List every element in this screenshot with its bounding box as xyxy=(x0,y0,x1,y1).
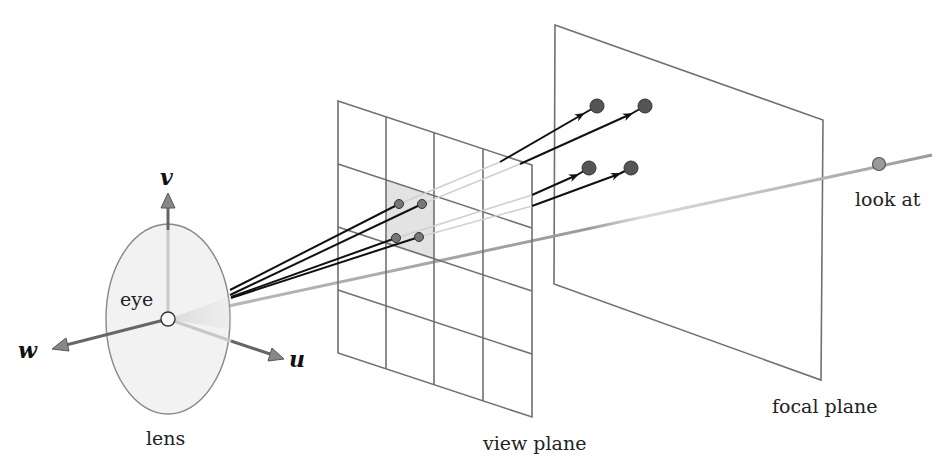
depth-of-field-diagram: v w u eye lens view plane focal plane lo… xyxy=(0,0,952,469)
focal-point xyxy=(582,161,596,175)
eye-point xyxy=(161,312,175,326)
v-arrow-icon xyxy=(161,193,175,208)
view-plane xyxy=(338,101,532,417)
w-arrow-icon xyxy=(52,338,69,351)
w-axis-label: w xyxy=(18,337,38,363)
sample-point xyxy=(415,233,424,242)
u-arrow-icon xyxy=(268,348,284,361)
focal-point xyxy=(590,99,604,113)
focal-plane xyxy=(554,25,823,380)
eye-label: eye xyxy=(120,288,153,310)
focal-plane-label: focal plane xyxy=(772,395,878,417)
sample-point xyxy=(395,200,404,209)
sample-point xyxy=(392,234,401,243)
focal-point xyxy=(624,161,638,175)
look-at-label: look at xyxy=(855,188,921,210)
v-axis-label: v xyxy=(160,164,173,190)
sample-point xyxy=(418,200,427,209)
u-axis-label: u xyxy=(289,346,305,372)
focal-point xyxy=(638,99,652,113)
view-plane-label: view plane xyxy=(482,432,586,454)
look-at-point xyxy=(873,158,886,171)
lens-label: lens xyxy=(146,427,185,449)
